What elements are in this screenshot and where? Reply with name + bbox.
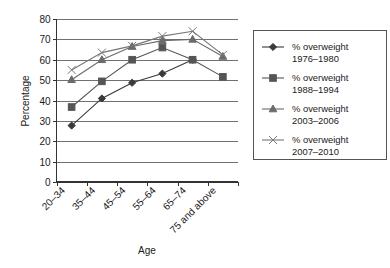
data-point-square bbox=[270, 75, 277, 82]
series-lines bbox=[72, 31, 223, 125]
legend-label-period: 2003–2006 bbox=[292, 115, 339, 126]
y-tick-label: 20 bbox=[39, 136, 51, 147]
x-tick-label: 20–34 bbox=[40, 184, 68, 212]
y-tick-label: 80 bbox=[39, 14, 51, 25]
y-axis-title: Percentage bbox=[20, 75, 31, 127]
overweight-by-age-line-chart: 01020304050607080 20–3435–4445–5455–6465… bbox=[0, 0, 390, 268]
chart-container: 01020304050607080 20–3435–4445–5455–6465… bbox=[0, 0, 390, 268]
x-axis-title: Age bbox=[138, 245, 156, 256]
y-tick-label: 0 bbox=[45, 177, 51, 188]
y-tick-label: 60 bbox=[39, 55, 51, 66]
legend-label-primary: % overweight bbox=[292, 72, 349, 83]
legend-label-period: 2007–2010 bbox=[292, 146, 339, 157]
x-tick-label: 35–44 bbox=[70, 184, 98, 212]
data-point-triangle bbox=[189, 35, 197, 42]
data-point-square bbox=[159, 44, 166, 51]
legend-label-primary: % overweight bbox=[292, 41, 349, 52]
y-tick-label: 30 bbox=[39, 116, 51, 127]
legend-label-primary: % overweight bbox=[292, 134, 349, 145]
data-point-square bbox=[189, 56, 196, 63]
x-tick-label: 65–74 bbox=[161, 184, 189, 212]
data-point-square bbox=[68, 104, 75, 111]
data-point-triangle bbox=[219, 52, 227, 59]
series-line bbox=[72, 39, 223, 79]
legend-label-period: 1976–1980 bbox=[292, 53, 339, 64]
data-point-diamond bbox=[159, 70, 166, 77]
y-tick-label: 40 bbox=[39, 96, 51, 107]
data-point-square bbox=[129, 56, 136, 63]
data-point-triangle bbox=[68, 76, 76, 83]
legend-label-primary: % overweight bbox=[292, 103, 349, 114]
y-tick-label: 70 bbox=[39, 34, 51, 45]
y-axis-tick-labels: 01020304050607080 bbox=[39, 14, 51, 188]
y-tick-label: 10 bbox=[39, 157, 51, 168]
series-line bbox=[72, 60, 193, 126]
data-point-square bbox=[220, 74, 227, 81]
x-tick-label: 45–54 bbox=[100, 184, 128, 212]
y-tick-label: 50 bbox=[39, 75, 51, 86]
legend-label-period: 1988–1994 bbox=[292, 84, 339, 95]
x-tick-label: 55–64 bbox=[130, 184, 158, 212]
data-point-square bbox=[99, 78, 106, 85]
x-axis-tick-labels: 20–3435–4445–5455–6465–7475 and above bbox=[40, 184, 219, 235]
